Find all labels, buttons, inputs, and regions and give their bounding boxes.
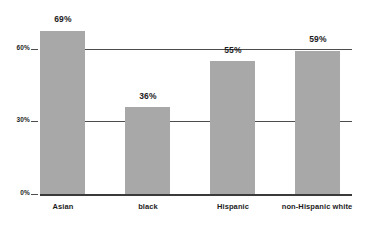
bar-non-hispanic-white — [295, 51, 340, 194]
y-tick-mark-60 — [31, 49, 38, 50]
plot-area: 60% 30% 0% 69% 36% 55% 59% Asian black H… — [0, 0, 366, 229]
y-tick-mark-0 — [31, 194, 38, 195]
y-tick-label-60: 60% — [4, 45, 30, 52]
gridline-60 — [40, 49, 352, 50]
y-tick-mark-30 — [31, 121, 38, 122]
bar-hispanic — [210, 61, 255, 194]
bar-asian — [40, 31, 85, 194]
x-axis-baseline — [40, 194, 352, 196]
bar-value-non-hispanic-white: 59% — [285, 35, 351, 44]
bar-value-asian: 69% — [30, 15, 96, 24]
bar-value-black: 36% — [115, 92, 181, 101]
bar-chart: 60% 30% 0% 69% 36% 55% 59% Asian black H… — [0, 0, 366, 229]
category-label-black: black — [110, 203, 186, 211]
y-tick-label-0: 0% — [4, 190, 30, 197]
category-label-non-hispanic-white: non-Hispanic white — [268, 203, 366, 211]
bar-value-hispanic: 55% — [200, 46, 266, 55]
category-label-hispanic: Hispanic — [195, 203, 271, 211]
y-tick-label-30: 30% — [4, 117, 30, 124]
bar-black — [125, 107, 170, 194]
category-label-asian: Asian — [25, 203, 101, 211]
